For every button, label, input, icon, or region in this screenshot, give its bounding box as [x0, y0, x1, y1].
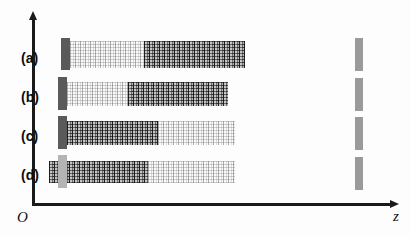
- row-label-b: (b): [21, 90, 39, 104]
- row-label-c: (c): [21, 129, 38, 143]
- row-d-segment-light: [148, 161, 235, 183]
- row-label-a: (a): [21, 51, 38, 65]
- y-axis-arrowhead: [29, 11, 37, 20]
- z-axis-arrowhead: [390, 200, 399, 208]
- row-b-segment-light: [67, 82, 128, 106]
- row-a-segment-light: [70, 41, 144, 68]
- row-b-source-block: [58, 77, 67, 110]
- row-b-segment-dark: [128, 82, 228, 106]
- row-a-source-block: [61, 38, 70, 70]
- origin-label: O: [17, 210, 28, 225]
- row-c-segment-light: [158, 121, 235, 145]
- row-c-source-block: [58, 116, 67, 149]
- row-a-detector-bar: [355, 38, 363, 71]
- row-c-detector-bar: [355, 117, 363, 150]
- figure-canvas: O z (a) (b) (c) (d): [0, 0, 411, 237]
- row-d-source-block: [58, 155, 67, 188]
- row-label-d: (d): [21, 168, 39, 182]
- row-a-segment-dark: [144, 41, 245, 68]
- z-axis-line: [32, 203, 392, 206]
- z-axis-label: z: [393, 209, 399, 224]
- row-c-segment-dark: [67, 121, 158, 145]
- row-d-detector-bar: [355, 157, 363, 190]
- row-b-detector-bar: [355, 78, 363, 111]
